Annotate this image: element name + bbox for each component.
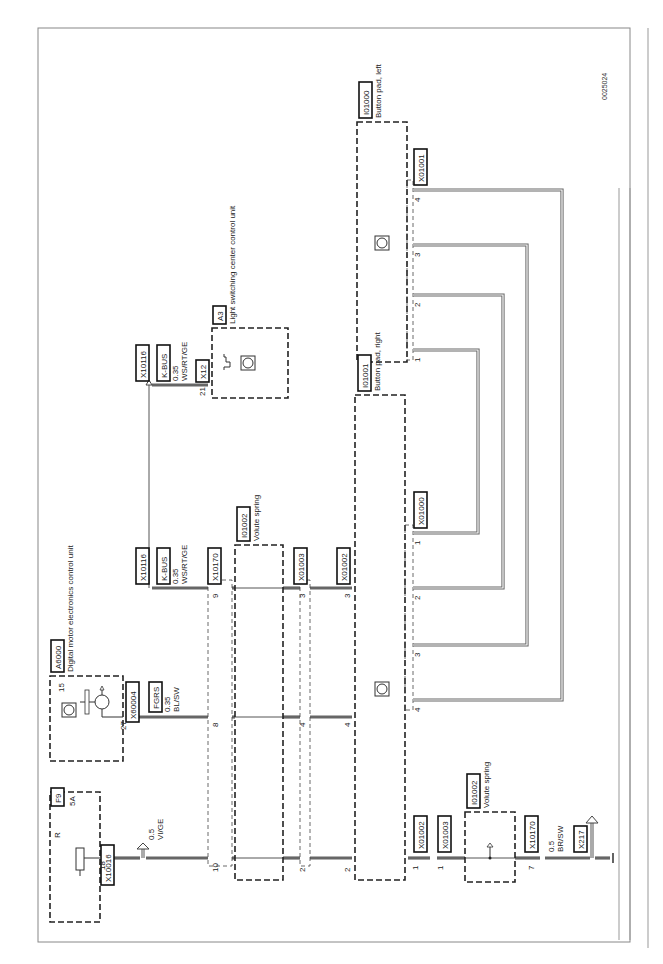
button-pad-left-pin-3: 3 (413, 252, 422, 257)
volute-spring-upper-id: I01002 (240, 513, 249, 538)
button-pad-left-id: I01000 (362, 90, 371, 115)
pin-2: 2 (343, 867, 352, 872)
volute-spring-lower-name: Volute spring (482, 762, 491, 808)
pin-3: 3 (343, 593, 352, 598)
dme-pin-15: 15 (57, 683, 66, 692)
wire-brsw-gauge: 0.5 (547, 840, 556, 852)
pin-10: 10 (211, 863, 220, 872)
fuse-id: F9 (54, 793, 63, 803)
transistor-icon (80, 686, 123, 717)
wire-fgrs-name: FGRS (152, 687, 161, 709)
connector-x60004-label: X60004 (129, 691, 138, 719)
connector-x01000-label: X01000 (417, 497, 426, 525)
pin-4: 4 (343, 722, 352, 727)
connector-x10170-lower-label: X10170 (528, 821, 537, 849)
button-pad-right-box (355, 395, 405, 880)
pin-3: 3 (298, 593, 307, 598)
dme-name: Digital motor electronics control unit (66, 545, 75, 672)
a3-id: A3 (216, 311, 225, 321)
button-pad-right-pin-2: 2 (413, 595, 422, 600)
connector-x01001-label: X01001 (417, 154, 426, 182)
wire-kbus-top-gauge: 0.35 (171, 365, 180, 381)
a3-name: Light switching center control unit (228, 205, 237, 324)
control-unit-icon (375, 236, 389, 250)
pin-1: 1 (411, 865, 420, 870)
button-pad-right-pin-1: 1 (413, 540, 422, 545)
volute-spring-upper-box (235, 545, 283, 880)
control-unit-icon (375, 682, 389, 696)
connector-x01002-lower-label: X01002 (417, 821, 426, 849)
button-pad-left-pin-4: 4 (413, 197, 422, 202)
wire-fgrs-gauge: 0.35 (163, 696, 172, 712)
pin-1: 1 (436, 865, 445, 870)
wire-kbus-mid-gauge: 0.35 (171, 568, 180, 584)
connector-x12-label: X12 (199, 364, 208, 379)
fuse-terminal: R (53, 832, 62, 838)
fuse-f9-box (50, 792, 100, 922)
wire-fgrs-color: BL/SW (172, 687, 181, 712)
wire-vige-color: VI/GE (156, 819, 165, 840)
button-pad-right-id: I01001 (361, 363, 370, 388)
document-id: 0025024 (601, 73, 608, 100)
button-pad-right-pin-4: 4 (413, 707, 422, 712)
control-unit-icon (241, 356, 255, 370)
connector-x01003-lower-label: X01003 (441, 821, 450, 849)
wire-kbus-mid-name: K-BUS (160, 557, 169, 581)
pin-7: 7 (527, 865, 536, 870)
pin-4: 4 (298, 722, 307, 727)
connector-x10116-mid-label: X10116 (139, 553, 148, 581)
wire-kbus-mid-color: WS/RT/GE (180, 545, 189, 584)
fuse-rating: 5A (68, 796, 77, 806)
pulse-signal-icon (224, 354, 230, 370)
connector-x01002-upper-label: X01002 (340, 553, 349, 581)
fuse-icon (76, 848, 100, 876)
connector-x217-label: X217 (577, 830, 586, 849)
wiring-diagram: F9 5A R X10016 18 0.5 VI/GE A6000 Digita… (0, 0, 663, 964)
control-unit-icon (62, 703, 76, 717)
wire-lower (408, 853, 613, 863)
dme-pin-27: 27 (119, 721, 128, 730)
volute-spring-upper-name: Volute spring (252, 495, 261, 541)
button-pad-left-pin-2: 2 (413, 302, 422, 307)
pin-2: 2 (298, 867, 307, 872)
dme-id: A6000 (54, 645, 63, 669)
connector-x01000-block (405, 525, 413, 710)
pin-8: 8 (211, 722, 220, 727)
connector-x10170-upper-label: X10170 (211, 553, 220, 581)
wire-kbus-top-name: K-BUS (160, 354, 169, 378)
button-pad-left-pin-1: 1 (413, 357, 422, 362)
wire-brsw-color: BR/SW (556, 825, 565, 852)
connector-x01001-block (407, 180, 413, 360)
a3-pin-21: 21 (198, 387, 207, 396)
wire-vige-gauge: 0.5 (147, 828, 156, 840)
continuation-arrow-icon (487, 843, 493, 860)
wire-kbus-top-color: WS/RT/GE (180, 342, 189, 381)
continuation-arrow-icon (137, 843, 149, 858)
connector-x10116-top-label: X10116 (139, 350, 148, 378)
volute-spring-lower-id: I01002 (470, 780, 479, 805)
button-pad-right-pin-3: 3 (413, 652, 422, 657)
pin-9: 9 (211, 593, 220, 598)
pin-18: 18 (98, 861, 107, 870)
button-pad-left-name: Button pad, left (374, 63, 383, 118)
button-pad-right-name: Button pad, right (373, 332, 382, 391)
diagram-frame (38, 28, 630, 942)
connector-x01003-upper-label: X01003 (297, 553, 306, 581)
